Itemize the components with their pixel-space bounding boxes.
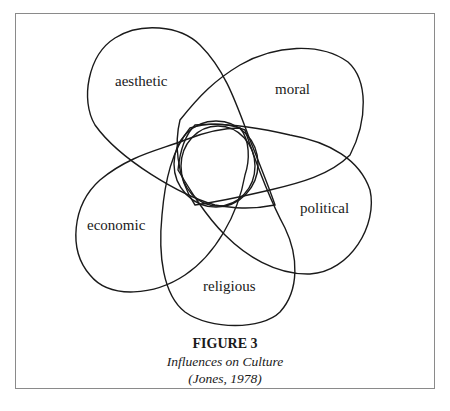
figure-citation: (Jones, 1978) [0, 371, 450, 387]
center-circle-outer [174, 121, 258, 207]
label-aesthetic: aesthetic [115, 73, 167, 90]
label-moral: moral [275, 81, 310, 98]
label-religious: religious [203, 278, 256, 295]
label-economic: economic [87, 217, 145, 234]
center-circle-inner [181, 126, 255, 206]
figure-subtitle: Influences on Culture [0, 354, 450, 370]
lobe-moral [177, 48, 363, 205]
figure-title: FIGURE 3 [0, 336, 450, 352]
label-political: political [300, 200, 349, 217]
